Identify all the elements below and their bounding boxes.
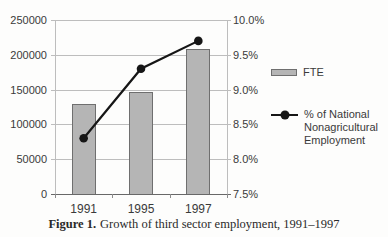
- legend-item-line: % of National Nonagricultural Employment: [271, 108, 385, 147]
- legend-label-line: % of National Nonagricultural Employment: [304, 108, 378, 147]
- line-path: [84, 41, 199, 138]
- y-axis-label-right: 10.0%: [233, 14, 277, 27]
- x-axis-baseline: [51, 194, 231, 195]
- y-axis-label-left: 200000: [0, 49, 47, 62]
- caption-text: Growth of third sector employment, 1991–…: [100, 217, 340, 231]
- legend-label-line-3: Employment: [304, 134, 378, 147]
- figure-container: 25000010.0%2000009.5%1500009.0%1000008.5…: [0, 0, 388, 237]
- x-axis-label: 1991: [62, 202, 106, 216]
- x-axis-label: 1997: [176, 202, 220, 216]
- caption-prefix: Figure 1.: [48, 217, 96, 231]
- legend-label-fte: FTE: [303, 66, 324, 79]
- y-axis-label-left: 0: [0, 188, 47, 201]
- line-point: [137, 64, 146, 73]
- plot-edge-right: [227, 20, 228, 194]
- line-point: [79, 134, 88, 143]
- y-axis-label-left: 150000: [0, 84, 47, 97]
- line-series: [55, 20, 227, 194]
- bar-swatch-icon: [271, 69, 297, 76]
- legend-item-fte: FTE: [271, 66, 385, 79]
- legend-label-line-2: Nonagricultural: [304, 121, 378, 134]
- y-axis-label-left: 100000: [0, 118, 47, 131]
- x-axis-tick: [170, 194, 171, 198]
- y-axis-label-left: 250000: [0, 14, 47, 27]
- legend-label-line-1: % of National: [304, 108, 378, 121]
- line-point: [194, 37, 203, 46]
- line-swatch-icon: [271, 114, 298, 116]
- y-axis-label-right: 9.5%: [233, 49, 277, 62]
- x-axis-tick: [55, 194, 56, 198]
- x-axis-label: 1995: [119, 202, 163, 216]
- x-axis-tick: [112, 194, 113, 198]
- y-axis-label-right: 7.5%: [233, 188, 277, 201]
- figure-caption: Figure 1.Growth of third sector employme…: [0, 217, 388, 232]
- x-axis-tick: [227, 194, 228, 198]
- y-axis-label-left: 50000: [0, 153, 47, 166]
- marker-dot-icon: [280, 111, 289, 120]
- y-axis-label-right: 8.0%: [233, 153, 277, 166]
- legend: FTE % of National Nonagricultural Employ…: [271, 66, 385, 147]
